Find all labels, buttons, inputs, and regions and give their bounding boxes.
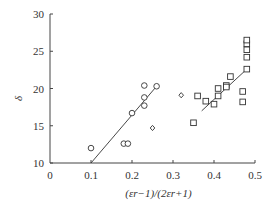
circle-marker: [154, 83, 160, 89]
square-marker: [244, 54, 250, 60]
square-marker: [195, 93, 201, 99]
square-marker: [228, 74, 234, 80]
square-marker: [240, 99, 246, 105]
x-tick-label: 0.4: [207, 169, 221, 181]
x-tick-label: 0.2: [125, 169, 139, 181]
square-marker: [244, 66, 250, 72]
square-marker: [244, 47, 250, 53]
y-tick-label: 30: [33, 8, 45, 20]
data-points: [88, 37, 249, 151]
square-marker: [224, 84, 230, 90]
circle-marker: [142, 103, 148, 109]
circle-marker: [142, 83, 148, 89]
scatter-chart: 101520253000.10.20.30.40.5 (εr−1)/(2εr+1…: [0, 0, 273, 207]
circle-marker: [125, 141, 131, 147]
x-tick-label: 0.1: [84, 169, 98, 181]
y-tick-label: 15: [33, 120, 45, 132]
square-marker: [240, 89, 246, 95]
axes: 101520253000.10.20.30.40.5: [33, 8, 262, 181]
circle-marker: [129, 110, 135, 116]
y-tick-label: 10: [33, 157, 45, 169]
x-tick-label: 0: [47, 169, 53, 181]
square-marker: [215, 93, 221, 99]
square-marker: [211, 101, 217, 107]
square-marker: [215, 86, 221, 92]
y-tick-label: 25: [33, 45, 45, 57]
y-tick-label: 20: [33, 83, 45, 95]
axis-labels: (εr−1)/(2εr+1)δ: [12, 95, 192, 200]
square-marker: [244, 37, 250, 43]
square-marker: [191, 120, 197, 126]
diamond-marker: [179, 93, 184, 98]
square-marker: [203, 98, 209, 104]
x-axis-label: (εr−1)/(2εr+1): [125, 187, 192, 200]
circle-marker: [88, 145, 94, 151]
x-tick-label: 0.3: [166, 169, 180, 181]
circle-marker: [142, 95, 148, 101]
y-axis-label: δ: [12, 95, 24, 101]
x-tick-label: 0.5: [248, 169, 262, 181]
diamond-marker: [150, 125, 155, 130]
